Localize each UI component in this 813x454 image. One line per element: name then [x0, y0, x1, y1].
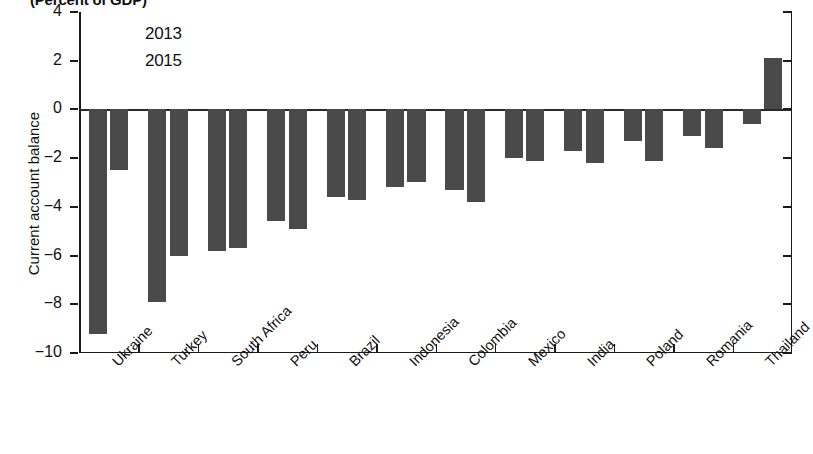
y-tick-label: 4 [19, 0, 62, 22]
bar-colombia-2015 [467, 109, 485, 202]
y-tick-mark-left [70, 157, 78, 159]
y-tick-label: −8 [19, 292, 62, 314]
bar-poland-2015 [645, 109, 663, 160]
y-tick-mark-left [70, 255, 78, 257]
bar-indonesia-2015 [407, 109, 425, 182]
bar-colombia-2013 [445, 109, 463, 189]
bar-india-2013 [564, 109, 582, 150]
y-tick-mark-left [70, 352, 78, 354]
bar-turkey-2015 [170, 109, 188, 255]
y-tick-mark-right [783, 157, 792, 159]
bar-south-africa-2015 [229, 109, 247, 248]
y-tick-mark-left [70, 60, 78, 62]
bar-thailand-2015 [764, 58, 782, 109]
y-tick-label: −2 [19, 146, 62, 168]
y-tick-mark-right [783, 108, 792, 110]
y-axis-line [79, 12, 81, 353]
y-tick-label: −4 [19, 195, 62, 217]
y-tick-mark-left [70, 206, 78, 208]
y-tick-mark-left [70, 11, 78, 13]
y-tick-mark-right [783, 303, 792, 305]
bar-indonesia-2013 [386, 109, 404, 187]
y-tick-label: −6 [19, 244, 62, 266]
y-tick-mark-left [70, 303, 78, 305]
y-tick-mark-right [783, 60, 792, 62]
bar-ukraine-2015 [110, 109, 128, 170]
bar-peru-2015 [289, 109, 307, 228]
y-tick-label: 0 [19, 97, 62, 119]
bar-brazil-2013 [327, 109, 345, 197]
y-tick-mark-left [70, 108, 78, 110]
bar-south-africa-2013 [208, 109, 226, 250]
bar-mexico-2013 [505, 109, 523, 158]
bar-india-2015 [586, 109, 604, 163]
bar-poland-2013 [624, 109, 642, 141]
bar-brazil-2015 [348, 109, 366, 199]
bar-turkey-2013 [148, 109, 166, 301]
y-tick-mark-right [783, 11, 792, 13]
bar-thailand-2013 [743, 109, 761, 124]
y-axis-line-right [791, 12, 793, 353]
bar-ukraine-2013 [89, 109, 107, 333]
y-tick-mark-right [783, 206, 792, 208]
y-tick-label: 2 [19, 49, 62, 71]
bar-peru-2013 [267, 109, 285, 221]
y-tick-mark-right [783, 255, 792, 257]
y-tick-label: −10 [19, 341, 62, 363]
bar-romania-2015 [705, 109, 723, 148]
plot-area: 420−2−4−6−8−10 [79, 12, 792, 353]
bar-romania-2013 [683, 109, 701, 136]
bar-mexico-2015 [526, 109, 544, 160]
